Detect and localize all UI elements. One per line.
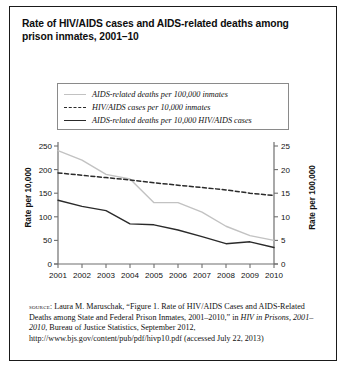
chart-plot-area: Rate per 10,000 Rate per 100,000 0501001… — [22, 135, 326, 293]
black-dashed-line-icon — [64, 107, 86, 108]
y-axis-right-tick-label: 5 — [281, 236, 286, 245]
legend-item-cases-per-10000: HIV/AIDS cases per 10,000 inmates — [64, 101, 210, 114]
y-axis-right-tick-label: 10 — [281, 213, 290, 222]
legend-item-label: HIV/AIDS cases per 10,000 inmates — [92, 103, 210, 112]
y-axis-right-tick-label: 15 — [281, 189, 290, 198]
legend-item-deaths-per-100000: AIDS-related deaths per 100,000 inmates — [64, 88, 228, 101]
y-axis-left-tick-label: 250 — [39, 142, 53, 151]
data-series-line — [58, 173, 274, 196]
y-axis-left-tick-label: 50 — [43, 236, 52, 245]
y-axis-left-tick-label: 0 — [48, 260, 53, 269]
y-axis-right-tick-label: 25 — [281, 142, 290, 151]
x-axis-tick-label: 2006 — [169, 271, 187, 280]
legend-item-label: AIDS-related deaths per 10,000 HIV/AIDS … — [92, 116, 252, 125]
x-axis-tick-label: 2001 — [49, 271, 67, 280]
line-chart-svg: 0501001502002500510152025200120022003200… — [22, 135, 326, 293]
legend-item-label: AIDS-related deaths per 100,000 inmates — [92, 90, 228, 99]
figure-container: Rate of HIV/AIDS cases and AIDS-related … — [9, 6, 337, 361]
y-axis-left-tick-label: 200 — [39, 166, 53, 175]
grey-solid-line-icon — [64, 94, 86, 95]
x-axis-tick-label: 2008 — [217, 271, 235, 280]
data-series-line — [58, 200, 274, 247]
source-citation: source: Laura M. Maruschak, “Figure 1. R… — [29, 302, 329, 344]
x-axis-tick-label: 2005 — [145, 271, 163, 280]
y-axis-left-tick-label: 150 — [39, 189, 53, 198]
x-axis-tick-label: 2004 — [121, 271, 139, 280]
x-axis-tick-label: 2003 — [97, 271, 115, 280]
y-axis-right-tick-label: 0 — [281, 260, 286, 269]
source-label: source: — [29, 302, 52, 311]
x-axis-tick-label: 2010 — [265, 271, 283, 280]
source-text-2: , Bureau of Justice Statistics, Septembe… — [29, 323, 264, 343]
x-axis-tick-label: 2009 — [241, 271, 259, 280]
page-title: Rate of HIV/AIDS cases and AIDS-related … — [22, 17, 322, 43]
chart-legend: AIDS-related deaths per 100,000 inmates … — [57, 83, 289, 130]
y-axis-left-tick-label: 100 — [39, 213, 53, 222]
legend-item-deaths-per-10000-cases: AIDS-related deaths per 10,000 HIV/AIDS … — [64, 114, 252, 127]
y-axis-right-tick-label: 20 — [281, 166, 290, 175]
x-axis-tick-label: 2002 — [73, 271, 91, 280]
x-axis-tick-label: 2007 — [193, 271, 211, 280]
black-solid-line-icon — [64, 120, 86, 121]
